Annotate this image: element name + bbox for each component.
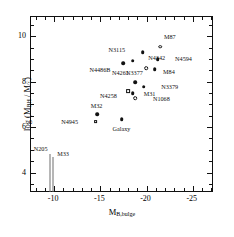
x-tick-label: -15 (94, 194, 105, 203)
data-point-n3379 (142, 85, 146, 89)
x-tick-bottom-minor (174, 188, 175, 191)
x-tick-bottom-minor (211, 188, 212, 191)
y-tick-right-minor (209, 150, 212, 151)
point-label-n4945: N4945 (61, 119, 78, 125)
x-tick-bottom-major (147, 186, 148, 191)
y-axis-title-mid: / M (22, 85, 32, 99)
data-point-m32 (96, 113, 100, 117)
x-tick-bottom-major (193, 186, 194, 191)
y-tick-right-minor (209, 138, 212, 139)
x-tick-bottom-major (54, 186, 55, 191)
point-label-n4594: N4594 (175, 56, 192, 62)
data-point-m84 (153, 67, 157, 71)
point-label-m87: M87 (164, 34, 176, 40)
x-tick-label: -10 (48, 194, 59, 203)
point-label-n3379: N3379 (161, 84, 178, 90)
x-tick-top-major (147, 17, 148, 22)
y-tick-right-major (207, 36, 212, 37)
x-tick-bottom-minor (110, 188, 111, 191)
y-tick-right-minor (209, 104, 212, 105)
data-point-n4258 (126, 89, 130, 93)
y-tick-right-minor (209, 184, 212, 185)
y-tick-right-minor (209, 48, 212, 49)
figure-scatter-plot: MB,bulge log (MBH / M☉) M87N3115N4594N43… (0, 0, 234, 237)
y-tick-label: 10 (12, 31, 26, 40)
x-tick-top-minor (184, 17, 185, 20)
y-axis-title-sub-sun: ☉ (26, 80, 32, 85)
x-tick-top-minor (211, 17, 212, 20)
upper-limit-label-m33: M33 (57, 151, 69, 157)
point-label-galaxy: Galaxy (113, 126, 131, 132)
y-tick-label: 4 (12, 167, 26, 176)
y-axis-title: log (MBH / M☉) (22, 49, 32, 159)
data-point-n4261 (145, 66, 149, 70)
x-tick-top-minor (128, 17, 129, 20)
point-label-n3377: N3377 (126, 70, 143, 76)
y-tick-right-major (207, 82, 212, 83)
x-tick-bottom-minor (36, 188, 37, 191)
y-tick-label: 6 (12, 122, 26, 131)
x-tick-top-minor (45, 17, 46, 20)
x-tick-top-major (54, 17, 55, 22)
x-tick-top-minor (119, 17, 120, 20)
x-tick-bottom-major (100, 186, 101, 191)
point-label-n3115: N3115 (109, 47, 126, 53)
y-tick-right-major (207, 127, 212, 128)
x-tick-top-minor (165, 17, 166, 20)
x-axis-title-sub: B,bulge (116, 211, 135, 217)
x-tick-label: -25 (186, 194, 197, 203)
x-tick-top-major (100, 17, 101, 22)
data-point-n4945 (94, 120, 98, 124)
point-label-m32: M32 (91, 103, 103, 109)
y-tick-left-minor (31, 25, 34, 26)
data-point-n3377 (134, 81, 138, 85)
point-label-m84: M84 (163, 69, 175, 75)
x-tick-top-minor (82, 17, 83, 20)
x-tick-top-minor (174, 17, 175, 20)
upper-limit-label-n205: N205 (34, 146, 48, 152)
x-tick-bottom-minor (165, 188, 166, 191)
x-tick-top-major (193, 17, 194, 22)
x-tick-bottom-minor (91, 188, 92, 191)
data-point-m31 (131, 91, 135, 95)
x-tick-bottom-minor (128, 188, 129, 191)
y-tick-left-major (31, 173, 36, 174)
y-tick-left-major (31, 36, 36, 37)
x-tick-top-minor (91, 17, 92, 20)
data-point-n4486b (122, 61, 126, 65)
y-tick-right-minor (209, 93, 212, 94)
x-tick-top-minor (137, 17, 138, 20)
x-tick-bottom-minor (156, 188, 157, 191)
point-label-n4258: N4258 (100, 93, 117, 99)
y-tick-left-minor (31, 161, 34, 162)
point-label-n4342: N4342 (148, 55, 165, 61)
data-point-m87 (159, 45, 163, 49)
data-point-n1068 (134, 97, 138, 101)
x-tick-top-minor (63, 17, 64, 20)
x-tick-bottom-minor (202, 188, 203, 191)
y-tick-label: 8 (12, 76, 26, 85)
y-tick-right-minor (209, 70, 212, 71)
y-tick-right-minor (209, 116, 212, 117)
y-tick-left-minor (31, 184, 34, 185)
x-axis-title: MB,bulge (109, 207, 135, 217)
plot-frame (30, 16, 213, 192)
x-tick-bottom-minor (82, 188, 83, 191)
point-label-n4486b: N4486B (89, 67, 110, 73)
y-tick-right-minor (209, 161, 212, 162)
upper-limit-n205 (49, 154, 50, 191)
x-tick-top-minor (36, 17, 37, 20)
point-label-n1068: N1068 (153, 96, 170, 102)
x-tick-top-minor (110, 17, 111, 20)
x-tick-label: -20 (140, 194, 151, 203)
x-tick-bottom-minor (184, 188, 185, 191)
data-point-n4342 (131, 59, 135, 63)
x-tick-bottom-minor (73, 188, 74, 191)
x-tick-bottom-minor (63, 188, 64, 191)
x-tick-bottom-minor (137, 188, 138, 191)
x-axis-title-main: M (109, 207, 117, 217)
x-tick-top-minor (73, 17, 74, 20)
x-tick-bottom-minor (119, 188, 120, 191)
y-tick-right-minor (209, 59, 212, 60)
data-point-n3115 (141, 51, 145, 55)
